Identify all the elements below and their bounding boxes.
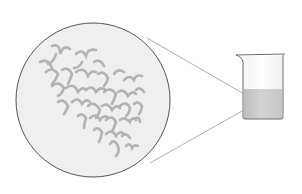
magnified-beaker-diagram <box>0 0 302 194</box>
beaker-icon <box>236 54 285 119</box>
beaker-liquid <box>244 89 282 119</box>
magnifier-circle-icon <box>16 23 170 177</box>
